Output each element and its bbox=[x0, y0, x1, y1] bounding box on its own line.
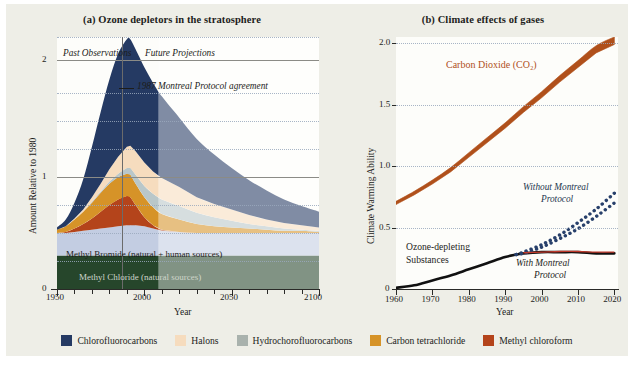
legend-item-chlorofluorocarbons[interactable]: Chlorofluorocarbons bbox=[61, 335, 157, 346]
panel-b-without-protocol-label-2: Protocol bbox=[541, 194, 573, 204]
legend-swatch-icon bbox=[370, 335, 381, 346]
panel-a-xtick-1960 bbox=[74, 290, 75, 294]
panel-a-x-axis-label: Year bbox=[174, 307, 192, 317]
legend-swatch-icon bbox=[61, 335, 72, 346]
legend-item-carbon-tetrachloride[interactable]: Carbon tetrachloride bbox=[370, 335, 465, 346]
panel-a-y-tick-0 bbox=[51, 289, 57, 290]
panel-a-xtick-2020 bbox=[179, 290, 180, 294]
panel-a-gridline-1.75 bbox=[57, 93, 319, 94]
legend-item-halons[interactable]: Halons bbox=[175, 335, 218, 346]
panel-a-xtick-2040 bbox=[214, 290, 215, 294]
panel-b-climate-effects: (b) Climate effects of gases 19601970198… bbox=[338, 4, 628, 324]
panel-b-title: (b) Climate effects of gases bbox=[338, 14, 628, 25]
panel-a-gridline-1.25 bbox=[57, 149, 319, 150]
panel-b-gridline-2 bbox=[396, 43, 618, 44]
panel-a-methyl-bromide-label: Methyl Bromide (natural + human sources) bbox=[66, 249, 222, 259]
panel-b-y-label-0: 0 bbox=[385, 283, 390, 293]
panel-b-x-label-1990: 1990 bbox=[494, 294, 512, 304]
panel-a-ozone-depletors: (a) Ozone depletors in the stratosphere … bbox=[6, 4, 338, 324]
panel-b-gridline-1.5 bbox=[396, 105, 618, 106]
panel-b-x-axis bbox=[396, 289, 619, 290]
panel-b-x-axis-label: Year bbox=[496, 307, 514, 317]
panel-a-y-label-2: 2 bbox=[42, 54, 47, 64]
panel-b-y-tick-2 bbox=[392, 43, 396, 44]
panel-b-x-label-1980: 1980 bbox=[458, 294, 476, 304]
panel-b-x-label-1970: 1970 bbox=[421, 294, 439, 304]
panel-a-gridline-0.25 bbox=[57, 261, 319, 262]
panel-b-x-label-2020: 2020 bbox=[603, 294, 621, 304]
panel-b-with-protocol-label-2: Protocol bbox=[534, 270, 566, 280]
panel-a-x-label-2100: 2100 bbox=[304, 292, 322, 302]
panel-b-co2-label: Carbon Dioxide (CO₂) bbox=[446, 59, 537, 70]
panel-a-xtick-1970 bbox=[92, 290, 93, 294]
panel-b-y-tick-0 bbox=[392, 289, 396, 290]
panel-b-x-label-1960: 1960 bbox=[385, 294, 403, 304]
panel-b-y-label-1.5: 1.5 bbox=[379, 99, 390, 109]
panel-b-ods-label-2: Substances bbox=[406, 254, 449, 265]
panel-a-title: (a) Ozone depletors in the stratosphere bbox=[6, 14, 338, 25]
panel-b-y-axis-label: Climate Warming Ability bbox=[366, 148, 376, 244]
panel-a-methyl-chloride-label: Methyl Chloride (natural sources) bbox=[79, 272, 201, 282]
panel-a-gridline-0.75 bbox=[57, 205, 319, 206]
panel-a-x-label-1950: 1950 bbox=[46, 292, 64, 302]
panel-a-past-observations-label: Past Observations bbox=[63, 48, 131, 58]
panel-a-xtick-1980 bbox=[109, 290, 110, 294]
panel-a-xtick-2010 bbox=[162, 290, 163, 294]
panel-a-x-label-2000: 2000 bbox=[133, 292, 151, 302]
panel-b-ods-label: Ozone-depleting bbox=[406, 241, 470, 252]
legend-item-methyl-chloroform[interactable]: Methyl chloroform bbox=[483, 335, 572, 346]
panel-a-y-axis-label: Amount Relative to 1980 bbox=[28, 138, 38, 234]
legend-item-label: Halons bbox=[191, 335, 218, 346]
panel-b-gridline-1 bbox=[396, 166, 618, 167]
figure-container: (a) Ozone depletors in the stratosphere … bbox=[6, 4, 628, 356]
panel-a-gridline-2.25 bbox=[57, 37, 319, 38]
figure-legend: ChlorofluorocarbonsHalonsHydrochorofluor… bbox=[6, 332, 628, 348]
panel-a-xtick-2090 bbox=[302, 290, 303, 294]
panel-b-y-label-1: 1.0 bbox=[379, 160, 390, 170]
panel-b-x-label-2010: 2010 bbox=[567, 294, 585, 304]
legend-item-label: Methyl chloroform bbox=[499, 335, 572, 346]
panel-a-xtick-2080 bbox=[284, 290, 285, 294]
legend-swatch-icon bbox=[237, 335, 248, 346]
panel-a-future-projections-label: Future Projections bbox=[145, 48, 215, 58]
panel-b-y-tick-1.5 bbox=[392, 105, 396, 106]
panel-a-xtick-2070 bbox=[267, 290, 268, 294]
panel-a-solid-line-1 bbox=[57, 177, 319, 178]
panel-a-gridline-1.5 bbox=[57, 121, 319, 122]
legend-item-label: Carbon tetrachloride bbox=[386, 335, 465, 346]
panel-a-gridline-0.5 bbox=[57, 233, 319, 234]
panel-a-y-label-1: 1 bbox=[42, 171, 47, 181]
panel-a-xtick-1990 bbox=[127, 290, 128, 294]
panel-b-y-label-0.5: 0.5 bbox=[379, 222, 390, 232]
panel-b-y-tick-0.5 bbox=[392, 228, 396, 229]
legend-item-label: Chlorofluorocarbons bbox=[77, 335, 157, 346]
panel-a-solid-line-2 bbox=[57, 60, 319, 61]
panel-b-y-tick-1 bbox=[392, 166, 396, 167]
legend-swatch-icon bbox=[483, 335, 494, 346]
panel-a-protocol-leader-line bbox=[119, 88, 134, 89]
panel-a-montreal-protocol-label: 1987 Montreal Protocol agreement bbox=[137, 81, 268, 91]
legend-item-hydrochorofluorocarbons[interactable]: Hydrochorofluorocarbons bbox=[237, 335, 353, 346]
panel-b-line-without-montreal-protocol-lower bbox=[516, 203, 614, 255]
panel-a-xtick-2030 bbox=[197, 290, 198, 294]
panel-a-x-label-2050: 2050 bbox=[220, 292, 238, 302]
panel-b-x-label-2000: 2000 bbox=[531, 294, 549, 304]
legend-item-label: Hydrochorofluorocarbons bbox=[253, 335, 353, 346]
panel-a-x-axis bbox=[57, 289, 320, 290]
panel-b-with-protocol-label: With Montreal bbox=[516, 258, 570, 268]
panel-b-without-protocol-label: Without Montreal bbox=[523, 182, 589, 192]
panel-a-xtick-2060 bbox=[249, 290, 250, 294]
legend-swatch-icon bbox=[175, 335, 186, 346]
panel-b-y-label-2: 2.0 bbox=[379, 37, 390, 47]
panel-b-gridline-0.5 bbox=[396, 228, 618, 229]
